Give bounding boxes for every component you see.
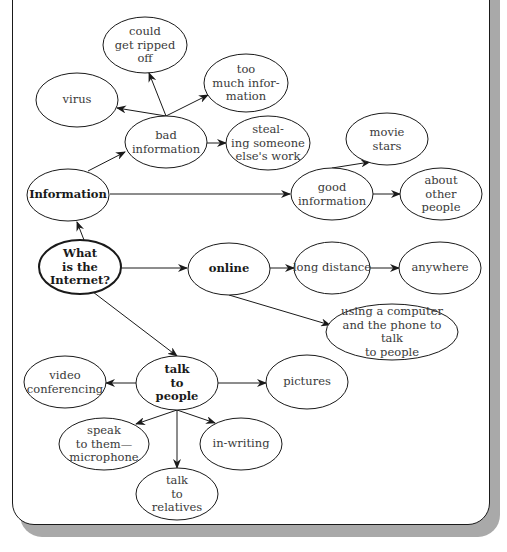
- node-information: [27, 169, 109, 221]
- node-video: [24, 356, 106, 408]
- node-virus: [36, 73, 118, 127]
- node-speak: [59, 418, 149, 470]
- edge-bad-to-toomuch: [166, 95, 208, 116]
- node-bad: [125, 116, 207, 168]
- node-about: [400, 168, 482, 220]
- node-what: [39, 240, 121, 294]
- node-online: [188, 243, 270, 295]
- node-movie: [346, 113, 428, 165]
- node-relatives: [136, 468, 218, 520]
- edge-good-to-movie: [332, 162, 370, 168]
- node-toomuch: [204, 54, 288, 112]
- edge-bad-to-virus: [117, 108, 166, 116]
- node-good: [291, 168, 373, 220]
- node-talk: [136, 356, 218, 410]
- node-pictures: [266, 355, 348, 409]
- node-writing: [200, 418, 282, 470]
- edge-what-to-talk: [93, 292, 177, 356]
- edge-information-to-bad: [88, 152, 125, 171]
- edge-bad-to-ripped: [149, 73, 166, 116]
- concept-map: [0, 0, 507, 552]
- node-ripped: [103, 17, 187, 73]
- node-anywhere: [399, 242, 481, 294]
- edge-online-to-computer: [229, 295, 330, 325]
- node-computer: [326, 304, 458, 360]
- node-longdist: [294, 242, 370, 294]
- node-layer: [24, 17, 482, 520]
- edge-what-to-information: [77, 222, 84, 240]
- edge-talk-to-speak: [136, 410, 177, 424]
- node-stealing: [226, 116, 310, 170]
- edge-talk-to-writing: [177, 410, 215, 423]
